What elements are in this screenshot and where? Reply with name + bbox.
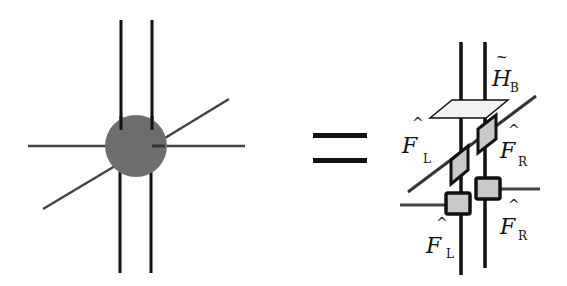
label-fl-bottom: ^ F L <box>425 215 454 261</box>
svg-text:^: ^ <box>508 197 520 213</box>
label-hb: ~ H B <box>491 49 519 95</box>
svg-text:R: R <box>518 229 528 243</box>
fr-top-box <box>478 115 496 153</box>
svg-text:^: ^ <box>508 122 520 138</box>
svg-text:L: L <box>446 247 454 261</box>
svg-text:F: F <box>425 233 442 258</box>
svg-text:F: F <box>499 138 516 163</box>
right-decomposition: ~ H B ^ F L ^ F R ^ F L ^ F R <box>400 42 540 275</box>
fl-bottom-box <box>446 193 470 214</box>
tensor-network-diagram: ~ H B ^ F L ^ F R ^ F L ^ F R <box>0 0 567 286</box>
label-fl-top: ^ F L <box>401 115 431 166</box>
svg-text:^: ^ <box>436 215 448 231</box>
svg-text:F: F <box>401 133 418 158</box>
svg-text:L: L <box>423 152 431 166</box>
svg-text:~: ~ <box>496 49 508 65</box>
label-fr-top: ^ F R <box>499 122 528 169</box>
fl-top-box <box>451 146 468 184</box>
label-fr-bottom: ^ F R <box>499 197 528 243</box>
svg-text:H: H <box>491 66 512 91</box>
svg-text:^: ^ <box>412 115 424 131</box>
left-tensor <box>28 20 245 273</box>
svg-text:R: R <box>518 155 528 169</box>
svg-text:B: B <box>510 81 519 95</box>
equals-sign <box>313 133 367 163</box>
fr-bottom-box <box>476 178 500 199</box>
svg-text:F: F <box>499 214 516 239</box>
